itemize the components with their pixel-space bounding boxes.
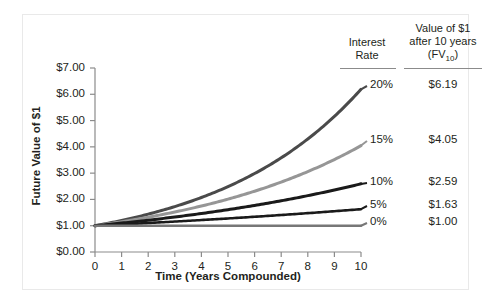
legend-rule-value: [404, 68, 482, 69]
x-tick-label: 9: [323, 260, 345, 272]
y-tick-label: $1.00: [29, 219, 85, 231]
x-tick-label: 10: [350, 260, 372, 272]
y-tick-label: $6.00: [29, 87, 85, 99]
leader-line-20pct: [361, 86, 367, 89]
x-tick-label: 0: [84, 260, 106, 272]
leader-line-15pct: [361, 141, 367, 146]
x-tick-label: 1: [111, 260, 133, 272]
y-tick-label: $2.00: [29, 192, 85, 204]
x-tick-label: 4: [190, 260, 212, 272]
y-axis-ticks: [90, 68, 95, 252]
series-line-20pct: [95, 89, 361, 225]
legend-header-value-line3: (FV10): [428, 48, 458, 60]
legend-header-rate: Interest Rate: [336, 36, 398, 62]
legend-header-value: Value of $1 after 10 years (FV10): [400, 22, 486, 65]
leader-line-0pct: [361, 223, 367, 226]
x-axis-ticks: [95, 252, 361, 257]
leader-line-10pct: [361, 183, 367, 184]
legend-header-value-line1: Value of $1: [416, 22, 471, 34]
x-tick-label: 6: [244, 260, 266, 272]
legend-value-15pct: $4.05: [406, 133, 480, 145]
legend-leader-lines: [361, 86, 367, 226]
legend-header-value-line2: after 10 years: [409, 35, 476, 47]
legend-header-rate-line2: Rate: [355, 49, 378, 61]
series-label-15pct: 15%: [370, 133, 393, 145]
x-tick-label: 3: [164, 260, 186, 272]
y-axis-title: Future Value of $1: [30, 86, 42, 226]
x-tick-label: 8: [297, 260, 319, 272]
legend-header-rate-line1: Interest: [349, 36, 386, 48]
x-tick-label: 5: [217, 260, 239, 272]
legend-value-0pct: $1.00: [406, 215, 480, 227]
y-tick-label: $4.00: [29, 140, 85, 152]
series-label-20pct: 20%: [370, 78, 393, 90]
y-tick-label: $0.00: [29, 245, 85, 257]
y-tick-label: $3.00: [29, 166, 85, 178]
leader-line-5pct: [361, 206, 367, 209]
data-curves: [95, 89, 361, 225]
x-tick-label: 2: [137, 260, 159, 272]
series-label-5pct: 5%: [370, 198, 387, 210]
legend-value-5pct: $1.63: [406, 198, 480, 210]
legend-value-10pct: $2.59: [406, 175, 480, 187]
series-label-0pct: 0%: [370, 215, 387, 227]
legend-rule-rate: [340, 68, 396, 69]
legend-value-20pct: $6.19: [406, 78, 480, 90]
chart-figure: Future Value of $1 Time (Years Compounde…: [0, 0, 491, 307]
y-tick-label: $7.00: [29, 61, 85, 73]
series-label-10pct: 10%: [370, 175, 393, 187]
x-tick-label: 7: [270, 260, 292, 272]
y-tick-label: $5.00: [29, 114, 85, 126]
